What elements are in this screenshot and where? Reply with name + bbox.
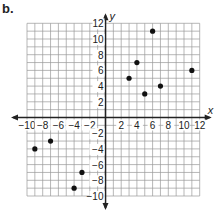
x-tick-label: 8	[166, 120, 172, 131]
y-axis-label: y	[109, 10, 117, 22]
y-tick-label: 4	[98, 81, 104, 92]
y-tick-label: −8	[92, 175, 104, 186]
y-tick-label: 6	[98, 65, 104, 76]
data-point	[48, 138, 53, 143]
grid-lines	[27, 23, 200, 196]
x-tick-label: 6	[150, 120, 156, 131]
data-point	[126, 76, 131, 81]
y-tick-label: −2	[92, 128, 104, 139]
x-tick-label: −10	[19, 120, 36, 131]
data-point	[142, 91, 147, 96]
x-tick-label: 12	[194, 120, 206, 131]
data-point	[158, 84, 163, 89]
y-axis-down-arrow-icon	[103, 203, 109, 210]
tick-labels: −10−8−6−4−224681012−10−8−6−4−224681012	[19, 18, 206, 202]
x-tick-label: 2	[118, 120, 124, 131]
data-point	[72, 186, 77, 191]
y-tick-label: 10	[92, 34, 104, 45]
y-tick-label: 8	[98, 50, 104, 61]
x-axis-left-arrow-icon	[11, 115, 18, 121]
x-tick-label: 4	[134, 120, 140, 131]
y-tick-label: −4	[92, 144, 104, 155]
y-tick-label: −6	[92, 160, 104, 171]
x-tick-label: 10	[178, 120, 190, 131]
data-point	[79, 170, 84, 175]
x-tick-label: −8	[37, 120, 49, 131]
data-point	[134, 60, 139, 65]
x-tick-label: −6	[53, 120, 65, 131]
scatter-plot: xy −10−8−6−4−224681012−10−8−6−4−22468101…	[0, 0, 220, 222]
y-tick-label: 2	[98, 97, 104, 108]
y-tick-label: −10	[87, 191, 104, 202]
data-point	[189, 68, 194, 73]
data-point	[150, 29, 155, 34]
y-tick-label: 12	[92, 18, 104, 29]
x-tick-label: −4	[68, 120, 80, 131]
data-point	[32, 146, 37, 151]
x-axis-label: x	[207, 104, 214, 116]
